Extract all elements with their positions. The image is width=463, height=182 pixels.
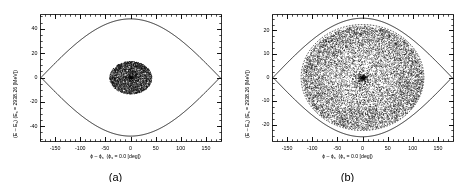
x-axis-title-a: ϕ – ϕs (ϕs = 0.0 [deg]) xyxy=(0,153,231,159)
panel-b: ϕ – ϕs (ϕs = 0.0 [deg]) (E – Es) (Es = 2… xyxy=(232,0,463,182)
y-axis-title-b: (E – Es) (Es = 2938.26 [MeV]) xyxy=(244,70,250,138)
panel-a: ϕ – ϕs (ϕs = 0.0 [deg]) (E – Es) (Es = 2… xyxy=(0,0,231,182)
y-axis-title-a: (E – Es) (Es = 2938.26 [MeV]) xyxy=(12,70,18,138)
panel-caption-b: (b) xyxy=(232,171,463,182)
panel-caption-a: (a) xyxy=(0,171,231,182)
phase-space-figure: ϕ – ϕs (ϕs = 0.0 [deg]) (E – Es) (Es = 2… xyxy=(0,0,463,182)
x-axis-title-b: ϕ – ϕs (ϕs = 0.0 [deg]) xyxy=(232,153,463,159)
